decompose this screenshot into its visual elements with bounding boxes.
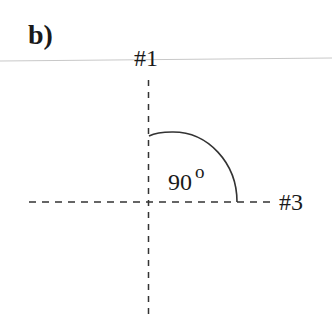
panel-label: b) (28, 19, 53, 50)
angle-degree-symbol: o (195, 161, 205, 182)
angle-value: 90 (168, 169, 192, 195)
axis-1-label: #1 (134, 45, 158, 71)
top-rule (0, 58, 332, 61)
diagram-canvas: b) #1 #3 90 o (0, 0, 332, 320)
axis-3-label: #3 (279, 189, 303, 215)
angle-arc (149, 132, 237, 202)
